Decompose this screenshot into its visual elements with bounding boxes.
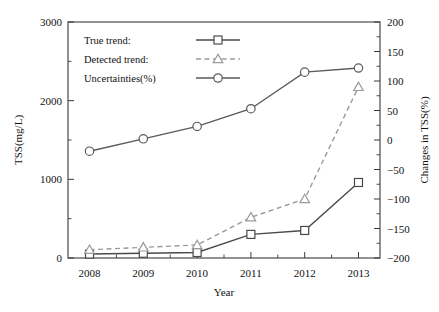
y-axis-left-title: TSS(mg/L) bbox=[12, 115, 25, 165]
right-tick-label: 200 bbox=[387, 16, 404, 28]
x-tick-label: 2008 bbox=[79, 267, 102, 279]
legend-marker-circle bbox=[214, 74, 222, 82]
data-point-circle bbox=[247, 105, 255, 113]
right-tick-label: 50 bbox=[387, 105, 399, 117]
data-point-circle bbox=[300, 68, 308, 76]
right-tick-label: 0 bbox=[387, 134, 393, 146]
chart-background bbox=[0, 0, 439, 312]
right-tick-label: 150 bbox=[387, 46, 404, 58]
left-tick-label: 0 bbox=[57, 252, 63, 264]
data-point-square bbox=[301, 226, 309, 234]
x-axis-title: Year bbox=[214, 286, 235, 298]
data-point-square bbox=[354, 178, 362, 186]
legend-label-0: True trend: bbox=[84, 35, 131, 46]
left-tick-label: 3000 bbox=[40, 16, 63, 28]
left-tick-label: 1000 bbox=[40, 173, 63, 185]
x-tick-label: 2011 bbox=[240, 267, 262, 279]
chart-plot-area: 0100020003000 −200−150−100−5005010015020… bbox=[0, 0, 439, 312]
data-point-circle bbox=[354, 64, 362, 72]
right-tick-label: −100 bbox=[387, 193, 410, 205]
y-axis-right-title: Changes in TSS(%) bbox=[418, 96, 431, 184]
data-point-square bbox=[193, 248, 201, 256]
data-point-circle bbox=[85, 147, 93, 155]
right-tick-label: 100 bbox=[387, 75, 404, 87]
left-tick-label: 2000 bbox=[40, 95, 63, 107]
legend-marker-square bbox=[214, 36, 222, 44]
right-tick-label: −200 bbox=[387, 252, 410, 264]
data-point-circle bbox=[193, 122, 201, 130]
chart-container: 0100020003000 −200−150−100−5005010015020… bbox=[0, 0, 439, 312]
x-tick-label: 2012 bbox=[294, 267, 316, 279]
right-tick-label: −150 bbox=[387, 223, 410, 235]
x-tick-label: 2009 bbox=[132, 267, 155, 279]
data-point-square bbox=[247, 230, 255, 238]
x-tick-label: 2013 bbox=[347, 267, 370, 279]
right-tick-label: −50 bbox=[387, 164, 405, 176]
legend-label-2: Uncertainties(%) bbox=[84, 73, 156, 85]
x-tick-label: 2010 bbox=[186, 267, 209, 279]
legend-label-1: Detected trend: bbox=[84, 54, 149, 65]
data-point-circle bbox=[139, 135, 147, 143]
